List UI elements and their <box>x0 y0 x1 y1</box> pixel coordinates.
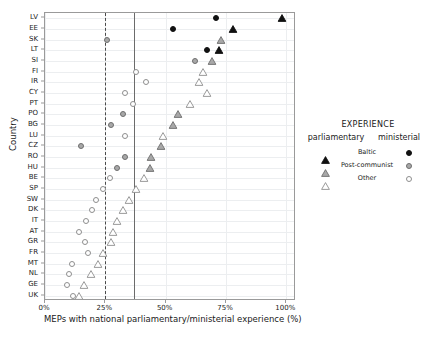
grid-line-horizontal <box>45 264 294 265</box>
plot-panel <box>44 12 295 300</box>
data-point-ministerial-ee <box>170 26 176 32</box>
grid-line-horizontal <box>45 50 294 51</box>
x-axis-tick-25pct: 25% <box>97 304 113 312</box>
data-point-ministerial-cy <box>122 90 128 96</box>
data-point-parliamentary-be <box>139 174 148 182</box>
y-axis-tick-fr: FR <box>29 249 38 256</box>
grid-line-horizontal <box>45 136 294 137</box>
y-axis-tick-ir: IR <box>31 78 38 85</box>
x-axis-tick-mark <box>285 300 286 303</box>
data-point-parliamentary-uk <box>74 292 83 300</box>
grid-line-horizontal <box>45 178 294 179</box>
data-point-parliamentary-ee <box>229 25 238 33</box>
data-point-ministerial-lv <box>213 15 219 21</box>
data-point-parliamentary-nl <box>86 270 95 278</box>
y-axis-tick-uk: UK <box>28 291 38 298</box>
legend-row-post-communist[interactable]: Post-communist <box>305 159 431 172</box>
y-axis-tick-hu: HU <box>28 163 38 170</box>
y-axis-tick-lt: LT <box>31 46 38 53</box>
y-axis-tick-lv: LV <box>30 14 38 21</box>
data-point-ministerial-lt <box>204 47 210 53</box>
data-point-ministerial-ir <box>143 79 149 85</box>
data-point-ministerial-cz <box>78 143 84 149</box>
y-axis-tick-ge: GE <box>28 281 38 288</box>
y-axis-tick-labels: LVEESKLTSIFIIRCYPTPOBGLUCZROHUBESPSWDKIT… <box>0 0 44 337</box>
y-axis-tick-it: IT <box>32 217 38 224</box>
legend-title: EXPERIENCE <box>305 120 431 129</box>
legend-label: Baltic <box>335 148 399 156</box>
data-point-parliamentary-fi <box>199 68 208 76</box>
grid-line-horizontal <box>45 200 294 201</box>
data-point-ministerial-mt <box>69 261 75 267</box>
data-point-parliamentary-ge <box>79 281 88 289</box>
data-point-parliamentary-mt <box>94 260 103 268</box>
grid-line-horizontal <box>45 82 294 83</box>
legend-label: Other <box>335 174 399 182</box>
data-point-parliamentary-lv <box>277 14 286 22</box>
data-point-parliamentary-fr <box>98 249 107 257</box>
y-axis-tick-dk: DK <box>28 206 38 213</box>
y-axis-tick-sp: SP <box>29 185 38 192</box>
grid-line-horizontal <box>45 168 294 169</box>
data-point-ministerial-it <box>83 218 89 224</box>
data-point-parliamentary-sp <box>131 185 140 193</box>
data-point-ministerial-gr <box>82 239 88 245</box>
grid-line-horizontal <box>45 72 294 73</box>
y-axis-tick-si: SI <box>31 57 38 64</box>
data-point-ministerial-si <box>192 58 198 64</box>
data-point-ministerial-fi <box>133 69 139 75</box>
legend-row-baltic[interactable]: Baltic <box>305 146 431 159</box>
data-point-parliamentary-sw <box>125 196 134 204</box>
y-axis-tick-nl: NL <box>29 270 38 277</box>
y-axis-tick-ee: EE <box>29 25 38 32</box>
reference-line-solid <box>134 13 135 299</box>
y-axis-tick-po: PO <box>28 110 38 117</box>
grid-line-vertical <box>166 13 167 299</box>
data-point-parliamentary-po <box>173 110 182 118</box>
data-point-parliamentary-ro <box>147 153 156 161</box>
legend-circle-icon <box>406 176 412 182</box>
data-point-parliamentary-lt <box>214 46 223 54</box>
y-axis-tick-ro: RO <box>28 153 38 160</box>
x-axis-tick-0pct: 0% <box>38 304 49 312</box>
data-point-ministerial-fr <box>85 250 91 256</box>
y-axis-tick-sw: SW <box>27 195 38 202</box>
grid-line-horizontal <box>45 189 294 190</box>
y-axis-tick-sk: SK <box>29 35 38 42</box>
y-axis-tick-cz: CZ <box>28 142 38 149</box>
legend-label: Post-communist <box>335 161 399 169</box>
y-axis-tick-gr: GR <box>28 238 38 245</box>
data-point-parliamentary-bg <box>168 121 177 129</box>
x-axis-title: MEPs with national parliamentary/ministe… <box>44 314 295 324</box>
x-axis-tick-mark <box>225 300 226 303</box>
grid-line-horizontal <box>45 157 294 158</box>
data-point-parliamentary-dk <box>119 206 128 214</box>
data-point-parliamentary-cy <box>202 89 211 97</box>
y-axis-tick-be: BE <box>29 174 38 181</box>
grid-line-vertical <box>286 13 287 299</box>
legend-column-parliamentary: parliamentary <box>305 133 367 142</box>
grid-line-horizontal <box>45 93 294 94</box>
data-point-parliamentary-hu <box>145 164 154 172</box>
grid-line-vertical <box>45 13 46 299</box>
grid-line-vertical <box>226 13 227 299</box>
dot-plot-figure: Country LVEESKLTSIFIIRCYPTPOBGLUCZROHUBE… <box>0 0 432 337</box>
legend-column-ministerial: ministerial <box>367 133 431 142</box>
data-point-parliamentary-sk <box>217 36 226 44</box>
y-axis-tick-bg: BG <box>28 121 38 128</box>
grid-line-horizontal <box>45 232 294 233</box>
grid-line-horizontal <box>45 274 294 275</box>
legend-circle-icon <box>406 163 412 169</box>
data-point-ministerial-sk <box>104 37 110 43</box>
legend-row-other[interactable]: Other <box>305 172 431 185</box>
data-point-parliamentary-ir <box>195 78 204 86</box>
x-axis-tick-75pct: 75% <box>217 304 233 312</box>
x-axis-line <box>44 300 295 301</box>
grid-line-horizontal <box>45 61 294 62</box>
legend-triangle-icon <box>321 175 330 194</box>
legend: EXPERIENCE parliamentary ministerial Bal… <box>305 120 431 190</box>
x-axis-tick-mark <box>104 300 105 303</box>
legend-circle-icon <box>406 150 412 156</box>
y-axis-tick-fi: FI <box>32 67 38 74</box>
x-axis-tick-mark <box>44 300 45 303</box>
